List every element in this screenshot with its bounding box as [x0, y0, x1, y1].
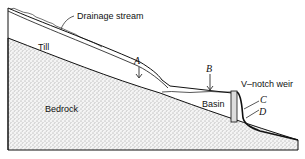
till-label: Till	[38, 43, 49, 52]
point-a-label: A	[134, 56, 140, 66]
bedrock-region	[8, 38, 298, 150]
weir-label: V–notch weir	[241, 80, 293, 89]
basin-water-surface	[162, 92, 232, 93]
bedrock-label: Bedrock	[45, 105, 78, 114]
drainage-stream-label: Drainage stream	[77, 12, 144, 21]
basin-label: Basin	[202, 100, 225, 109]
point-b-label: B	[206, 64, 212, 74]
drainage-stream-leader	[61, 16, 74, 29]
v-notch-weir	[231, 91, 237, 122]
arrow-b	[207, 74, 213, 90]
point-c-label: C	[260, 95, 267, 105]
arrow-c	[244, 101, 259, 109]
arrow-a	[136, 67, 142, 78]
point-d-label: D	[259, 107, 266, 117]
arrow-d	[246, 110, 259, 118]
